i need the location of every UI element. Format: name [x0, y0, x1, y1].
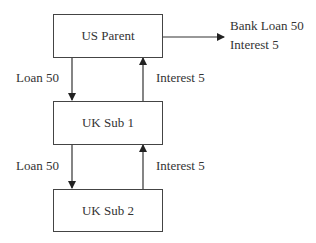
node-label: UK Sub 1 — [82, 115, 134, 131]
node-label: US Parent — [81, 28, 134, 44]
node-label: UK Sub 2 — [82, 203, 134, 219]
edge-label-interest-2: Interest 5 — [156, 158, 205, 174]
node-uk-sub-2: UK Sub 2 — [53, 189, 163, 232]
edge-label-loan-2: Loan 50 — [16, 158, 59, 174]
edge-label-interest-1: Interest 5 — [156, 70, 205, 86]
node-us-parent: US Parent — [53, 14, 163, 58]
external-label-interest: Interest 5 — [230, 37, 279, 53]
external-label-bank-loan: Bank Loan 50 — [230, 18, 304, 34]
edge-label-loan-1: Loan 50 — [16, 70, 59, 86]
node-uk-sub-1: UK Sub 1 — [53, 101, 163, 145]
